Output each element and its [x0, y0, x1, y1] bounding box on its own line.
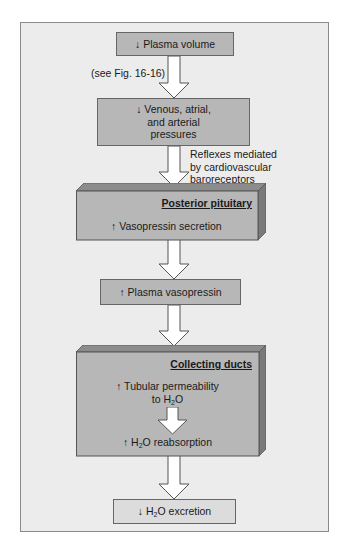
pressures-line-3: pressures	[98, 128, 249, 141]
plasma-volume-box: ↓ Plasma volume	[116, 32, 234, 56]
h-text: to H	[152, 393, 171, 405]
plasma-vasopressin-box: ↑ Plasma vasopressin	[100, 279, 241, 305]
tubular-permeability-line-1: Tubular permeability	[124, 380, 219, 392]
flow-arrow-icon	[158, 456, 190, 500]
o-excretion-text: O excretion	[157, 505, 211, 517]
posterior-pituitary-title: Posterior pituitary	[162, 197, 252, 209]
pressures-line-1: Venous, atrial,	[144, 103, 211, 115]
h2o-excretion-box: ↓ H2O excretion	[113, 499, 236, 524]
vasopressin-secretion-label: Vasopressin secretion	[119, 220, 222, 232]
pressures-line-2: and arterial	[98, 116, 249, 129]
o-text: O	[175, 393, 183, 405]
up-arrow-icon: ↑	[116, 380, 121, 392]
plasma-volume-label: Plasma volume	[143, 38, 215, 50]
down-arrow-icon: ↓	[138, 505, 143, 517]
flow-arrow-icon	[158, 240, 190, 280]
see-fig-annotation: (see Fig. 16-16)	[91, 67, 165, 80]
flow-arrow-icon	[158, 146, 190, 188]
posterior-pituitary-box: Posterior pituitary ↑ Vasopressin secret…	[76, 183, 266, 241]
o-reabsorption-text: O reabsorption	[143, 436, 212, 448]
reflex-line-2: by cardiovascular	[190, 161, 277, 174]
collecting-ducts-title: Collecting ducts	[170, 358, 252, 370]
flow-arrow-icon	[158, 407, 188, 435]
vasopressin-secretion-text: ↑ Vasopressin secretion	[111, 220, 222, 233]
h2o-reabsorption-text: ↑ H2O reabsorption	[76, 436, 259, 449]
up-arrow-icon: ↑	[123, 436, 128, 448]
down-arrow-icon: ↓	[135, 38, 140, 50]
plasma-vasopressin-label: Plasma vasopressin	[128, 286, 222, 298]
down-arrow-icon: ↓	[136, 103, 141, 115]
flow-arrow-icon	[158, 305, 190, 347]
up-arrow-icon: ↑	[111, 220, 116, 232]
up-arrow-icon: ↑	[119, 286, 124, 298]
reflex-line-1: Reflexes mediated	[190, 148, 277, 161]
h-text: H	[146, 505, 154, 517]
tubular-permeability-text: ↑ Tubular permeability to H2O	[76, 380, 259, 405]
collecting-ducts-box: Collecting ducts ↑ Tubular permeability …	[76, 345, 266, 457]
h-text: H	[131, 436, 139, 448]
pressures-box: ↓ Venous, atrial, and arterial pressures	[97, 98, 250, 146]
reflex-annotation: Reflexes mediated by cardiovascular baro…	[190, 148, 277, 186]
